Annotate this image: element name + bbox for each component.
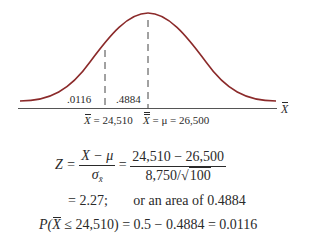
z-result-line: = 2.27; or an area of 0.4884 — [68, 193, 246, 209]
z-score-equation: Z = X − μ σx̄ = 24,510 − 26,500 8,750/√1… — [55, 148, 226, 184]
region-label-left-tail: .0116 — [67, 93, 91, 105]
region-label-between: .4884 — [116, 93, 141, 105]
marker-population-mean: X = μ = 26,500 — [143, 114, 209, 126]
probability-line: P(X ≤ 24,510) = 0.5 − 0.4884 = 0.0116 — [39, 217, 257, 233]
normal-curve-figure — [0, 0, 309, 130]
marker-sample-mean: X = 24,510 — [84, 114, 133, 126]
axis-label: X — [281, 102, 288, 117]
value-fraction: 24,510 − 26,500 8,750/√100 — [130, 149, 226, 184]
z-fraction: X − μ σx̄ — [79, 148, 115, 184]
